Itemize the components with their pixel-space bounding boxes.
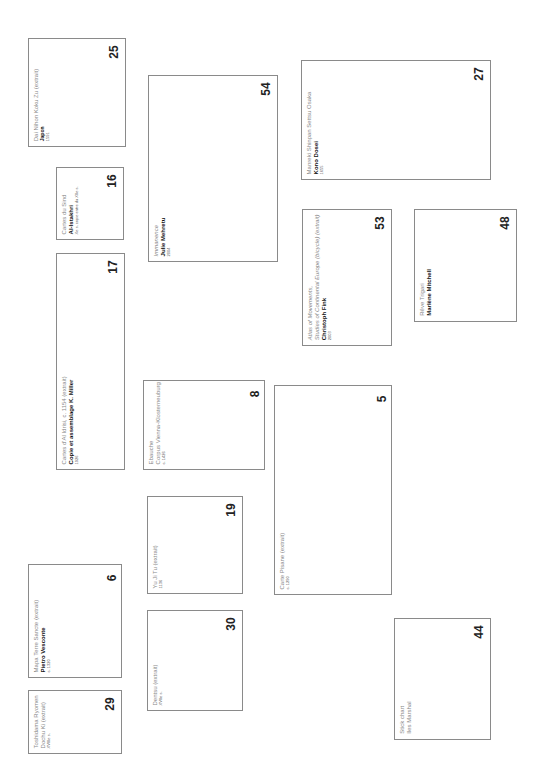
card-date: XVIIe s.	[159, 664, 164, 705]
card-date: 1136	[159, 545, 164, 588]
card-subtitle: Studies of Continental Europe (bicycle) …	[314, 214, 321, 340]
card-title: Rêve Trigari	[419, 269, 426, 316]
card-author: Christoph Fink	[321, 214, 328, 340]
card-title: Stick chart	[399, 702, 406, 734]
card-title: Immanence	[153, 217, 160, 256]
card-25[interactable]: 25 Dai Nihon Koku Zu (extrait) Japon 159…	[28, 38, 126, 147]
card-number: 16	[104, 174, 118, 187]
card-date: 1591	[46, 69, 51, 141]
card-date: c. 1320	[47, 599, 52, 672]
card-27[interactable]: 27 Manreki Shinpan Settsu Osaka Kono Dos…	[301, 60, 491, 180]
card-number: 17	[105, 260, 119, 273]
card-number: 29	[102, 697, 116, 710]
card-author: Kono Dosei	[313, 91, 320, 174]
card-number: 19	[223, 503, 237, 516]
card-date: 2004	[167, 217, 172, 256]
card-title: Ebauche	[148, 382, 155, 464]
card-date: Xe s. copie entre du XIIe s.	[75, 186, 80, 234]
card-6[interactable]: 6 Mapa Terre Sancte (extrait) Pietro Ves…	[28, 564, 122, 678]
card-48[interactable]: 48 Rêve Trigari Marlène Mitchell	[414, 209, 517, 322]
card-date: c. 1426	[162, 382, 167, 464]
card-5[interactable]: 5 Carte Pisane (extrait) c. 1290	[274, 385, 392, 595]
card-title: Atlas of Movements,	[307, 214, 314, 340]
card-19[interactable]: 19 Yu Ji Tu (extrait) 1136	[147, 496, 243, 594]
card-author: Copie et assemblage K. Miller	[68, 376, 75, 464]
card-number: 54	[258, 82, 272, 95]
card-number: 25	[106, 45, 120, 58]
card-number: 5	[376, 396, 390, 403]
card-date: c. 1290	[286, 532, 291, 589]
card-date: XVIIIe s.	[47, 695, 52, 748]
card-number: 27	[471, 67, 485, 80]
card-16[interactable]: 16 Cartes du Sind Al-Istakhri Xe s. copi…	[56, 167, 124, 240]
card-number: 48	[497, 216, 511, 229]
card-date: 2003	[328, 214, 333, 340]
card-44[interactable]: 44 Stick chart Iles Marshal	[394, 618, 491, 740]
card-8[interactable]: 8 Ebauche Corpus Vienna-Klosterneuburg c…	[143, 380, 265, 470]
card-53[interactable]: 53 Atlas of Movements, Studies of Contin…	[302, 209, 392, 346]
card-title: Mapa Terre Sancte (extrait)	[33, 599, 40, 672]
card-54[interactable]: 54 Immanence Julie Mehretu 2004	[148, 75, 278, 262]
card-number: 30	[223, 617, 237, 630]
card-17[interactable]: 17 Cartes d'Al Idrisi, c. 1154 (extrait)…	[56, 253, 125, 470]
card-title: Manreki Shinpan Settsu Osaka	[306, 91, 313, 174]
card-date: 1926	[75, 376, 80, 464]
card-number: 44	[471, 625, 485, 638]
card-title: Cartes d'Al Idrisi, c. 1154 (extrait)	[61, 376, 68, 464]
card-title: Cartes du Sind	[61, 186, 68, 234]
card-subtitle: Iles Marshal	[406, 702, 413, 734]
card-30[interactable]: 30 Dentsu (extrait) XVIIe s.	[147, 610, 243, 711]
card-author: Marlène Mitchell	[426, 269, 433, 316]
card-number: 8	[249, 391, 263, 398]
card-29[interactable]: 29 Toshidama Ryomen Dochu Ki (extrait) X…	[28, 690, 122, 754]
card-number: 6	[106, 575, 120, 582]
card-number: 53	[372, 216, 386, 229]
card-title: Toshidama Ryomen	[33, 695, 40, 748]
card-date: 1655	[320, 91, 325, 174]
